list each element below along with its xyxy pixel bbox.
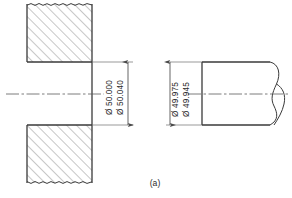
section-hatch-icon [27, 4, 92, 62]
drawing-canvas: Ø 50.000 Ø 50.040 Ø 49.975 Ø 49.945 [0, 0, 292, 198]
figure-eight-break-icon [270, 62, 285, 125]
shaft-lower-dimension-label: Ø 49.945 [182, 82, 191, 117]
hole-lower-body [27, 125, 92, 183]
hole-section-view: Ø 50.000 Ø 50.040 [6, 4, 133, 184]
shaft-view: Ø 49.975 Ø 49.945 [166, 62, 288, 125]
engineering-drawing-figure: Ø 50.000 Ø 50.040 Ø 49.975 Ø 49.945 [0, 0, 292, 198]
section-hatch-icon [27, 125, 92, 183]
hole-lower-dimension-label: Ø 50.000 [105, 80, 114, 115]
hole-upper-body [27, 4, 92, 63]
hole-upper-dimension-label: Ø 50.040 [116, 80, 125, 115]
figure-caption: (a) [150, 178, 161, 188]
shaft-upper-dimension-label: Ø 49.975 [171, 82, 180, 117]
